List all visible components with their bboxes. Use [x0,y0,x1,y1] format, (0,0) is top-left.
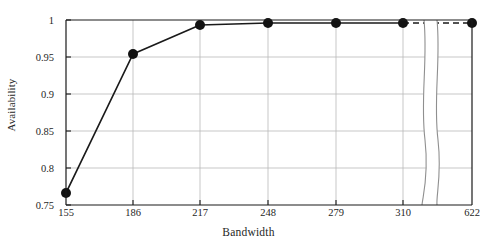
data-point-217 [195,20,205,30]
plot-area [0,0,497,246]
availability-vs-bandwidth-chart: Availability 1 0.95 0.9 0.85 0.8 0.75 15… [0,0,497,246]
plot-background [66,20,472,205]
data-point-186 [128,49,138,59]
